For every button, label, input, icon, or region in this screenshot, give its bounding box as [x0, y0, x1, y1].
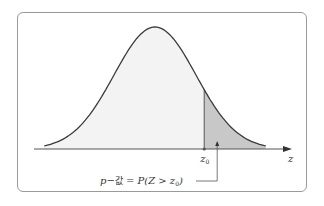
p-value-annotation: p−값 = P(Z > z0): [100, 175, 183, 187]
z-axis-label: z: [287, 153, 294, 164]
critical-value-label: z0: [199, 153, 209, 165]
z-axis-arrowhead: [283, 146, 292, 152]
normal-distribution-diagram: z z0 p−값 = P(Z > z0): [0, 0, 324, 206]
right-tail-shaded-area: [204, 90, 266, 149]
critical-value-point: [203, 147, 206, 150]
